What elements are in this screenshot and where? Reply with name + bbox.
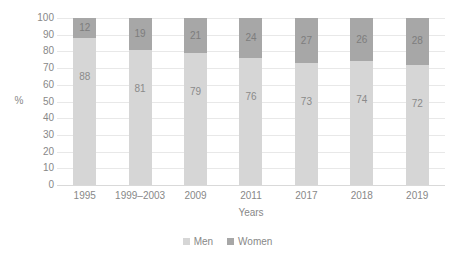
bar-value-label-women: 26	[356, 35, 367, 45]
bar-segment-women[interactable]: 21	[184, 18, 207, 53]
bar-value-label-women: 27	[301, 36, 312, 46]
bar-segment-men[interactable]: 74	[350, 61, 373, 185]
bar-segment-women[interactable]: 24	[239, 18, 262, 58]
y-axis-tick-label: 80	[28, 46, 54, 56]
bar-segment-women[interactable]: 19	[129, 18, 152, 50]
bar-value-label-men: 76	[245, 92, 256, 102]
bar-value-label-women: 24	[245, 33, 256, 43]
bar-stack[interactable]: 2179	[184, 18, 207, 185]
stacked-bar-chart: % 1009080706050403020100 128819812179247…	[0, 0, 455, 256]
y-axis-tick-label: 60	[28, 80, 54, 90]
bar-value-label-men: 79	[190, 87, 201, 97]
bar-slot: 2179	[168, 18, 223, 185]
x-axis-tick-label: 1999–2003	[112, 189, 167, 205]
bar-segment-women[interactable]: 12	[73, 18, 96, 38]
bar-value-label-men: 74	[356, 95, 367, 105]
x-axis-tick-label: 2009	[168, 189, 223, 205]
bar-value-label-men: 81	[135, 84, 146, 94]
y-axis-tick-label: 10	[28, 163, 54, 173]
bar-segment-men[interactable]: 72	[406, 65, 429, 185]
bar-value-label-women: 19	[135, 29, 146, 39]
bar-segment-women[interactable]: 26	[350, 18, 373, 61]
y-axis-tick-label: 40	[28, 113, 54, 123]
bar-slot: 1981	[112, 18, 167, 185]
chart-legend: MenWomen	[0, 236, 455, 247]
bar-stack[interactable]: 1981	[129, 18, 152, 185]
bar-slot: 2872	[390, 18, 445, 185]
bar-slot: 2674	[334, 18, 389, 185]
bar-slot: 2773	[279, 18, 334, 185]
bar-stack[interactable]: 2872	[406, 18, 429, 185]
y-axis-tick-label: 30	[28, 130, 54, 140]
bar-stack[interactable]: 1288	[73, 18, 96, 185]
bar-value-label-women: 21	[190, 31, 201, 41]
bar-segment-men[interactable]: 76	[239, 58, 262, 185]
bar-segment-women[interactable]: 27	[295, 18, 318, 63]
legend-item-women[interactable]: Women	[227, 236, 272, 247]
bar-segment-men[interactable]: 88	[73, 38, 96, 185]
x-axis-tick-label: 2011	[223, 189, 278, 205]
bar-segment-men[interactable]: 73	[295, 63, 318, 185]
y-axis-tick-label: 20	[28, 147, 54, 157]
x-axis-tick-label: 2017	[279, 189, 334, 205]
bar-segment-men[interactable]: 81	[129, 50, 152, 185]
bar-value-label-women: 12	[79, 23, 90, 33]
bar-value-label-men: 73	[301, 97, 312, 107]
bar-segment-men[interactable]: 79	[184, 53, 207, 185]
y-axis-tick-label: 100	[28, 13, 54, 23]
bar-segment-women[interactable]: 28	[406, 18, 429, 65]
x-axis-tick-label: 2018	[334, 189, 389, 205]
y-axis-tick-label: 0	[28, 180, 54, 190]
legend-label: Women	[238, 236, 272, 247]
y-axis-title: %	[10, 95, 28, 107]
legend-item-men[interactable]: Men	[183, 236, 213, 247]
legend-label: Men	[194, 236, 213, 247]
bar-stack[interactable]: 2476	[239, 18, 262, 185]
bar-value-label-men: 88	[79, 72, 90, 82]
bar-slot: 1288	[57, 18, 112, 185]
y-axis-tick-labels: 1009080706050403020100	[28, 18, 54, 185]
x-axis-tick-label: 2019	[390, 189, 445, 205]
x-axis-title: Years	[57, 207, 445, 219]
bar-value-label-women: 28	[412, 36, 423, 46]
bar-value-label-men: 72	[412, 99, 423, 109]
bar-slot: 2476	[223, 18, 278, 185]
x-axis-tick-labels: 19951999–200320092011201720182019	[57, 189, 445, 205]
plot-area: 1288198121792476277326742872	[57, 18, 445, 185]
bar-series-container: 1288198121792476277326742872	[57, 18, 445, 185]
bar-stack[interactable]: 2674	[350, 18, 373, 185]
y-axis-tick-label: 90	[28, 30, 54, 40]
legend-swatch-icon	[227, 238, 234, 245]
axis-baseline	[57, 185, 445, 186]
y-axis-tick-label: 50	[28, 97, 54, 107]
y-axis-tick-label: 70	[28, 63, 54, 73]
x-axis-tick-label: 1995	[57, 189, 112, 205]
legend-swatch-icon	[183, 238, 190, 245]
bar-stack[interactable]: 2773	[295, 18, 318, 185]
